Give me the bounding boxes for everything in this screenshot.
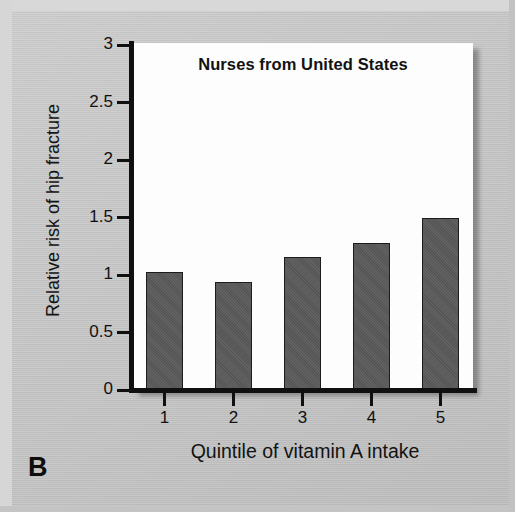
x-axis-tick: [370, 393, 373, 406]
x-axis-tick: [439, 393, 442, 406]
bar: [284, 257, 321, 390]
plot-area: Nurses from United States: [133, 43, 473, 390]
x-axis-tick: [163, 393, 166, 406]
y-axis-tick: [117, 389, 130, 392]
y-axis-tick: [117, 331, 130, 334]
y-axis-tick: [117, 44, 130, 47]
y-axis-tick-label: 2: [67, 149, 113, 169]
chart-title: Nurses from United States: [133, 55, 473, 74]
x-axis-tick-label: 1: [145, 408, 185, 428]
scan-edge-right: [509, 0, 515, 512]
y-axis-tick: [117, 216, 130, 219]
y-axis-tick-label: 3: [67, 34, 113, 54]
x-axis-tick: [301, 393, 304, 406]
x-axis-tick-label: 5: [421, 408, 461, 428]
bar: [422, 218, 459, 391]
scan-edge-bottom: [0, 506, 515, 512]
bar: [215, 282, 252, 390]
y-axis-tick-label: 1: [67, 264, 113, 284]
y-axis-tick: [117, 274, 130, 277]
x-axis-tick-label: 4: [352, 408, 392, 428]
bar: [353, 243, 390, 390]
y-axis-tick-label: 0: [67, 379, 113, 399]
y-axis-tick: [117, 101, 130, 104]
scan-edge-top: [0, 0, 515, 11]
x-axis-tick-label: 2: [214, 408, 254, 428]
panel-label: B: [28, 452, 48, 483]
y-axis-tick: [117, 159, 130, 162]
y-axis-title: Relative risk of hip fracture: [43, 61, 64, 361]
y-axis-tick-label: 0.5: [67, 322, 113, 342]
x-axis-title: Quintile of vitamin A intake: [110, 440, 500, 463]
bar: [146, 272, 183, 390]
x-axis-tick: [232, 393, 235, 406]
scan-edge-left: [0, 0, 12, 512]
y-axis-tick-label: 1.5: [67, 207, 113, 227]
y-axis-tick-label: 2.5: [67, 92, 113, 112]
figure-panel-b: Nurses from United States 00.511.522.53 …: [0, 0, 515, 512]
x-axis-tick-label: 3: [283, 408, 323, 428]
